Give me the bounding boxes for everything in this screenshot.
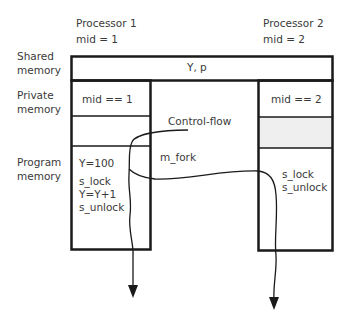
processor-2-program-line: s_unlock xyxy=(282,181,327,194)
shared-memory-content: Y, p xyxy=(187,61,207,74)
control-flow-label: Control-flow xyxy=(168,115,231,128)
fork-label: m_fork xyxy=(160,151,196,164)
arrowhead-1 xyxy=(128,285,138,298)
processor-1-program-line: s_unlock xyxy=(79,201,124,214)
arrowhead-2 xyxy=(269,297,279,310)
processor-2-column xyxy=(259,81,333,251)
processor-1-program-line: s_lock xyxy=(79,175,111,188)
processor-2-private: mid == 2 xyxy=(271,93,322,106)
shaded-private-region xyxy=(258,117,332,148)
processor-1-program-line: Y=100 xyxy=(79,157,114,170)
processor-1-program-line: Y=Y+1 xyxy=(79,188,116,201)
processor-1-private: mid == 1 xyxy=(82,93,133,106)
processor-2-program-line: s_lock xyxy=(282,168,314,181)
